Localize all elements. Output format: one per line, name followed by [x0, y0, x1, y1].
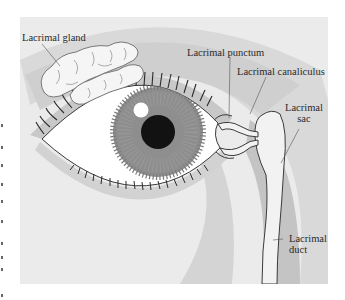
lacrimal-apparatus-figure: Lacrimal gland Lacrimal punctum Lacrimal… [0, 0, 345, 300]
label-lacrimal-duct: Lacrimal duct [289, 233, 327, 255]
label-lacrimal-gland: Lacrimal gland [22, 32, 86, 43]
eye-diagram-illustration [0, 0, 345, 300]
label-lacrimal-sac: Lacrimal sac [284, 102, 324, 124]
label-lacrimal-duct-line2: duct [289, 244, 327, 255]
eye-highlight [134, 103, 149, 118]
label-lacrimal-punctum: Lacrimal punctum [187, 47, 264, 58]
label-lacrimal-canaliculus: Lacrimal canaliculus [237, 66, 325, 77]
label-lacrimal-sac-line1: Lacrimal [284, 102, 324, 113]
label-lacrimal-duct-line1: Lacrimal [289, 233, 327, 244]
label-lacrimal-sac-line2: sac [284, 113, 324, 124]
pupil [141, 115, 175, 149]
